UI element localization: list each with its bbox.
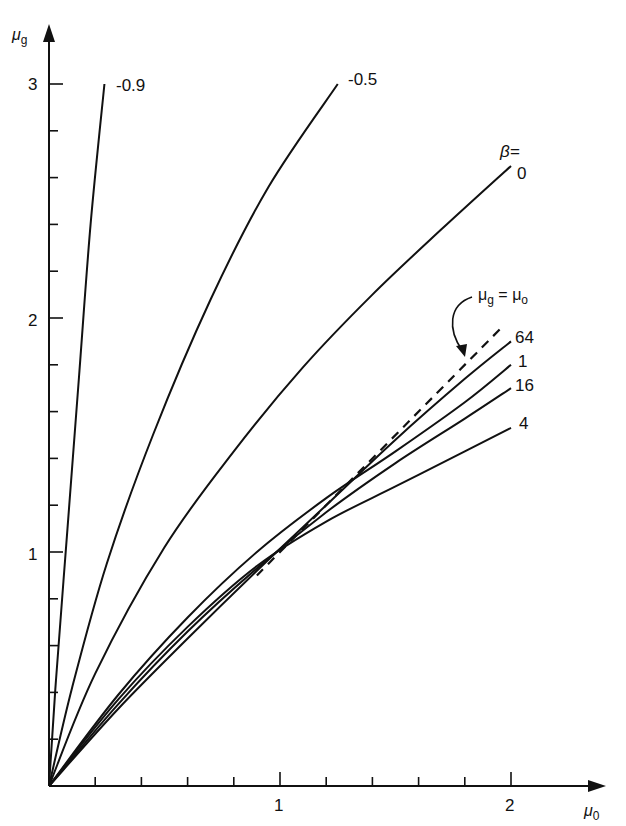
series-label-0: 0 xyxy=(517,164,526,184)
x-axis-tick-label-1: 1 xyxy=(274,796,283,816)
series-label-4: 4 xyxy=(519,414,528,434)
curve-1 xyxy=(49,365,511,786)
ticks xyxy=(49,84,511,786)
x-axis-label: μ0 xyxy=(584,802,599,823)
identity-eq: = xyxy=(494,286,512,303)
beta-header: β= xyxy=(500,142,520,162)
chart-plot xyxy=(0,0,626,826)
y-axis-tick-label-2: 2 xyxy=(28,311,37,331)
curves xyxy=(49,84,511,786)
series-label-1: 1 xyxy=(518,352,527,372)
curve-0 xyxy=(49,166,511,786)
y-axis-label-mu: μ xyxy=(12,26,21,43)
identity-mu: μ xyxy=(478,286,487,303)
curve--0.9 xyxy=(49,84,104,786)
identity-g: g xyxy=(487,293,494,307)
y-axis-tick-label-1: 1 xyxy=(28,545,37,565)
axes xyxy=(43,24,606,792)
identity-o: o xyxy=(521,293,528,307)
series-label-16: 16 xyxy=(515,376,534,396)
y-axis-tick-label-3: 3 xyxy=(28,75,37,95)
y-axis-arrow-icon xyxy=(43,24,55,42)
y-axis-label: μg xyxy=(12,26,27,47)
x-axis-label-mu: μ xyxy=(584,802,593,819)
series-label-neg0.9: -0.9 xyxy=(116,76,145,96)
identity-annotation: μg = μo xyxy=(478,286,528,307)
series-label-64: 64 xyxy=(515,328,534,348)
identity-mu-2: μ xyxy=(512,286,521,303)
x-axis-tick-label-2: 2 xyxy=(505,796,514,816)
annotation-arrowhead-icon xyxy=(456,344,467,357)
curve-16 xyxy=(49,388,511,786)
y-axis-label-sub: g xyxy=(21,33,28,47)
series-label-neg0.5: -0.5 xyxy=(348,70,377,90)
x-axis-arrow-icon xyxy=(588,780,606,792)
annotation-arrow-icon xyxy=(453,297,472,350)
curve-64 xyxy=(49,341,511,786)
x-axis-label-sub: 0 xyxy=(593,809,600,823)
curve-4 xyxy=(49,428,511,786)
